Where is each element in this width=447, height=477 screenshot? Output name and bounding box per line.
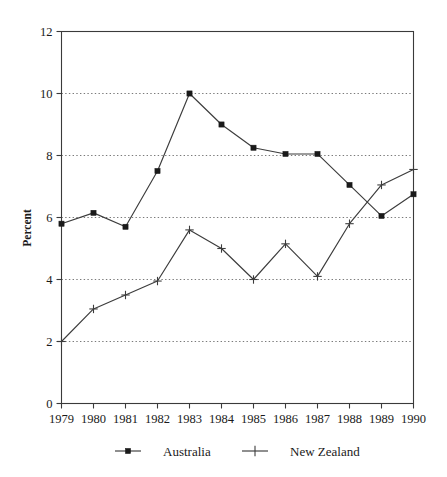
- y-tick-label-2: 2: [46, 335, 52, 349]
- line-chart: 0246810121979198019811982198319841985198…: [0, 0, 447, 477]
- x-tick-label-1987: 1987: [305, 412, 330, 426]
- data-point-australia-1986: [283, 151, 288, 156]
- data-point-new-zealand-1982: [153, 277, 161, 285]
- chart-canvas: 0246810121979198019811982198319841985198…: [0, 0, 447, 477]
- data-point-australia-1989: [379, 213, 384, 218]
- y-tick-label-8: 8: [46, 149, 52, 163]
- data-point-australia-1987: [315, 151, 320, 156]
- data-point-new-zealand-1981: [121, 291, 129, 299]
- data-point-australia-1980: [91, 210, 96, 215]
- x-tick-label-1985: 1985: [241, 412, 266, 426]
- y-tick-label-6: 6: [46, 211, 52, 225]
- data-point-australia-1984: [219, 122, 224, 127]
- data-point-new-zealand-1990: [409, 165, 417, 173]
- data-point-australia-1981: [123, 224, 128, 229]
- data-point-australia-1983: [187, 91, 192, 96]
- legend-label-australia: Australia: [163, 444, 211, 459]
- data-point-australia-1982: [155, 168, 160, 173]
- x-tick-label-1988: 1988: [337, 412, 362, 426]
- y-tick-label-4: 4: [46, 273, 53, 287]
- data-point-australia-1985: [251, 145, 256, 150]
- y-tick-label-10: 10: [40, 87, 53, 101]
- legend-label-new-zealand: New Zealand: [290, 444, 360, 459]
- x-tick-label-1990: 1990: [401, 412, 426, 426]
- x-tick-label-1989: 1989: [369, 412, 394, 426]
- x-tick-label-1982: 1982: [145, 412, 170, 426]
- series-line-australia: [62, 94, 414, 227]
- x-tick-label-1981: 1981: [113, 412, 138, 426]
- y-tick-label-12: 12: [40, 25, 53, 39]
- x-tick-label-1984: 1984: [209, 412, 235, 426]
- x-tick-label-1980: 1980: [81, 412, 106, 426]
- y-axis-title: Percent: [21, 209, 33, 247]
- data-point-australia-1988: [347, 182, 352, 187]
- x-tick-label-1979: 1979: [49, 412, 74, 426]
- y-tick-label-0: 0: [46, 397, 52, 411]
- x-tick-label-1986: 1986: [273, 412, 298, 426]
- legend-marker-australia: [115, 448, 141, 453]
- data-point-australia-1979: [59, 221, 64, 226]
- data-point-new-zealand-1983: [185, 226, 193, 234]
- legend-marker-new-zealand: [242, 446, 268, 456]
- x-tick-label-1983: 1983: [177, 412, 202, 426]
- data-point-australia-1990: [411, 192, 416, 197]
